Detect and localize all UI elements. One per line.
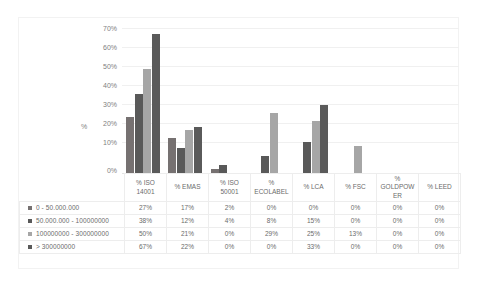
data-table: % ISO14001% EMAS% ISO50001%ECOLABEL% LCA… <box>19 173 461 254</box>
column-header: % FSC <box>335 174 377 202</box>
table-cell: 0% <box>335 241 377 254</box>
column-header: % ISO14001 <box>125 174 167 202</box>
table-cell: 0% <box>419 202 461 215</box>
table-cell: 29% <box>251 228 293 241</box>
table-cell: 12% <box>167 215 209 228</box>
bar-group <box>417 28 459 173</box>
plot-area: % 70% 60% 50% 40% 30% 20% 10% 0% <box>19 18 460 173</box>
table-cell: 0% <box>251 202 293 215</box>
y-tick-60: 60% <box>87 44 117 51</box>
column-header: % LEED <box>419 174 461 202</box>
table-cell: 13% <box>335 228 377 241</box>
table-row: > 30000000067%22%0%0%33%0%0%0% <box>20 241 461 254</box>
table-cell: 0% <box>335 215 377 228</box>
table-cell: 0% <box>335 202 377 215</box>
table-row: 100000000 - 30000000050%21%0%29%25%13%0%… <box>20 228 461 241</box>
table-cell: 27% <box>125 202 167 215</box>
bar <box>168 138 176 173</box>
bar <box>219 165 227 173</box>
table-cell: 15% <box>293 215 335 228</box>
bar-group <box>291 28 333 173</box>
legend-label: > 300000000 <box>36 243 75 251</box>
bar-group <box>164 28 206 173</box>
table-cell: 33% <box>293 241 335 254</box>
table-cell: 0% <box>419 228 461 241</box>
table-cell: 8% <box>251 215 293 228</box>
y-tick-30: 30% <box>87 101 117 108</box>
table-cell: 67% <box>125 241 167 254</box>
bar <box>261 156 269 173</box>
bar <box>312 121 320 173</box>
bar <box>143 69 151 173</box>
table-cell: 22% <box>167 241 209 254</box>
table-cell: 50% <box>125 228 167 241</box>
data-table-wrap: % ISO14001% EMAS% ISO50001%ECOLABEL% LCA… <box>19 173 460 269</box>
table-cell: 0% <box>377 215 419 228</box>
bar-group <box>206 28 248 173</box>
table-cell: 0% <box>251 241 293 254</box>
legend-swatch-icon <box>28 245 32 249</box>
table-cell: 38% <box>125 215 167 228</box>
column-header: %ECOLABEL <box>251 174 293 202</box>
table-cell: 0% <box>293 202 335 215</box>
table-corner-cell <box>20 174 125 202</box>
bar-group <box>375 28 417 173</box>
table-cell: 0% <box>377 241 419 254</box>
column-header: % EMAS <box>167 174 209 202</box>
table-cell: 21% <box>167 228 209 241</box>
table-cell: 0% <box>419 241 461 254</box>
bars-layer <box>122 28 459 173</box>
legend-entry[interactable]: > 300000000 <box>20 241 125 254</box>
table-cell: 4% <box>209 215 251 228</box>
legend-swatch-icon <box>28 219 32 223</box>
table-cell: 0% <box>419 215 461 228</box>
bar <box>270 113 278 173</box>
legend-swatch-icon <box>28 232 32 236</box>
legend-label: 50.000.000 - 100000000 <box>36 217 109 225</box>
table-row: 50.000.000 - 10000000038%12%4%8%15%0%0%0… <box>20 215 461 228</box>
bar <box>177 148 185 173</box>
table-cell: 0% <box>377 202 419 215</box>
y-tick-70: 70% <box>87 25 117 32</box>
bar <box>126 117 134 173</box>
bar <box>303 142 311 173</box>
legend-entry[interactable]: 50.000.000 - 100000000 <box>20 215 125 228</box>
legend-entry[interactable]: 0 - 50.000.000 <box>20 202 125 215</box>
bar <box>152 34 160 173</box>
bar <box>320 105 328 173</box>
bar <box>354 146 362 173</box>
y-tick-50: 50% <box>87 63 117 70</box>
table-cell: 25% <box>293 228 335 241</box>
bar <box>185 130 193 174</box>
table-cell: 0% <box>209 228 251 241</box>
bar-group <box>122 28 164 173</box>
y-tick-20: 20% <box>87 120 117 127</box>
column-header: % LCA <box>293 174 335 202</box>
legend-label: 0 - 50.000.000 <box>36 204 79 212</box>
bar <box>135 94 143 173</box>
table-cell: 17% <box>167 202 209 215</box>
bar-group <box>248 28 290 173</box>
chart-container: % 70% 60% 50% 40% 30% 20% 10% 0% % ISO14… <box>18 17 459 269</box>
legend-entry[interactable]: 100000000 - 300000000 <box>20 228 125 241</box>
column-header: % ISO50001 <box>209 174 251 202</box>
table-cell: 0% <box>377 228 419 241</box>
table-row: 0 - 50.000.00027%17%2%0%0%0%0%0% <box>20 202 461 215</box>
legend-label: 100000000 - 300000000 <box>36 230 109 238</box>
y-tick-40: 40% <box>87 82 117 89</box>
bar-group <box>333 28 375 173</box>
column-header: %GOLDPOWER <box>377 174 419 202</box>
table-header-row: % ISO14001% EMAS% ISO50001%ECOLABEL% LCA… <box>20 174 461 202</box>
table-cell: 0% <box>209 241 251 254</box>
table-cell: 2% <box>209 202 251 215</box>
legend-swatch-icon <box>28 206 32 210</box>
bar <box>194 127 202 173</box>
y-tick-10: 10% <box>87 139 117 146</box>
